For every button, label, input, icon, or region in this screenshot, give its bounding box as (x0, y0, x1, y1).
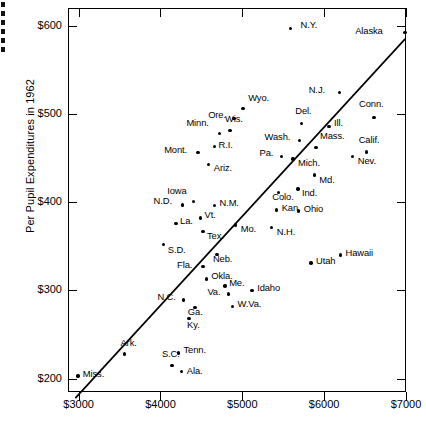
y-axis-tick-label: $500 (16, 107, 62, 119)
data-point-label: Miss. (83, 368, 104, 379)
data-point-label: Ala. (187, 365, 203, 376)
data-point (291, 157, 294, 160)
data-point-label: Mich. (298, 157, 320, 168)
data-point-label: Ind. (302, 187, 317, 198)
x-axis-tick-top (324, 8, 325, 17)
data-point (403, 31, 406, 34)
data-point-label: Tex. (207, 230, 224, 241)
data-point (181, 203, 184, 206)
data-point-label: Neb. (213, 253, 232, 264)
data-point (192, 200, 195, 203)
x-axis-tick-label: $5000 (210, 398, 274, 410)
data-point-label: Md. (319, 174, 334, 185)
data-point-label: Fla. (177, 259, 192, 270)
data-point-label: Ohio (304, 203, 323, 214)
y-axis-tick-right (397, 202, 406, 203)
data-point (372, 116, 375, 119)
data-point (205, 277, 208, 280)
data-point-label: Utah (316, 255, 335, 266)
data-point (170, 364, 173, 367)
x-axis-tick-label: $6000 (292, 398, 356, 410)
data-point-label: S.D. (168, 244, 186, 255)
data-point-label: Tenn. (183, 344, 205, 355)
data-point-label: Colo. (272, 191, 293, 202)
x-axis-tick-label: $7000 (374, 398, 426, 410)
x-axis-tick-top (160, 8, 161, 17)
data-point-label: N.M. (219, 197, 238, 208)
data-point (201, 230, 204, 233)
scan-artifact-mark (1, 38, 5, 43)
data-point-label: Mass. (320, 130, 345, 141)
scan-artifact-mark (1, 2, 5, 7)
data-point (250, 289, 253, 292)
data-point-label: Ariz. (214, 162, 232, 173)
x-axis-tick-top (242, 8, 243, 17)
data-point-label: Ky. (187, 319, 200, 330)
y-axis-tick (68, 290, 77, 291)
data-point-label: Ark. (120, 337, 136, 348)
data-point-label: Calif. (359, 134, 380, 145)
data-point-label: Wash. (265, 131, 291, 142)
data-point (123, 352, 126, 355)
data-point (182, 298, 185, 301)
data-point-label: La. (180, 215, 193, 226)
data-point-label: Me. (229, 277, 244, 288)
data-point-label: Ga. (188, 306, 203, 317)
data-point-label: N.D. (154, 195, 172, 206)
data-point (199, 216, 202, 219)
data-point-label: Idaho (257, 282, 280, 293)
x-axis-tick-label: $3000 (47, 398, 111, 410)
data-point-label: Vt. (205, 209, 216, 220)
y-axis-tick-label: $200 (16, 372, 62, 384)
y-axis-tick-right (397, 290, 406, 291)
data-point-label: Mont. (164, 144, 187, 155)
x-axis-tick-top (406, 8, 407, 17)
data-point-label: Mo. (241, 223, 256, 234)
scan-artifact-mark (1, 11, 5, 16)
data-point-label: Del. (295, 105, 311, 116)
y-axis-tick-label: $300 (16, 283, 62, 295)
data-point-label: Wis. (225, 113, 243, 124)
data-point-label: Ill. (334, 117, 343, 128)
x-axis-tick-top (79, 8, 80, 17)
data-point (76, 374, 79, 377)
y-axis-tick-label: $600 (16, 19, 62, 31)
y-axis-tick-right (397, 26, 406, 27)
y-axis-tick (68, 114, 77, 115)
scan-artifact-mark (1, 47, 5, 52)
scan-artifact-mark (1, 29, 5, 34)
data-point-label: Va. (207, 286, 220, 297)
data-point (218, 132, 221, 135)
y-axis-tick-label: $400 (16, 195, 62, 207)
data-point (227, 292, 230, 295)
data-point-label: W.Va. (237, 298, 261, 309)
data-point (223, 284, 226, 287)
data-point (201, 265, 204, 268)
data-point-label: N.C. (157, 291, 175, 302)
data-point-label: Wyo. (248, 92, 269, 103)
data-point-label: Hawaii (346, 247, 374, 258)
y-axis-tick-right (397, 379, 406, 380)
data-point (314, 146, 317, 149)
data-point (309, 261, 312, 264)
data-point-label: Minn. (186, 117, 208, 128)
data-point-label: Nev. (358, 155, 376, 166)
data-point-label: Ore. (208, 109, 226, 120)
data-point-label: Pa. (260, 147, 274, 158)
data-point (296, 187, 299, 190)
y-axis-tick (68, 202, 77, 203)
y-axis-tick (68, 26, 77, 27)
x-axis-tick-label: $4000 (128, 398, 192, 410)
data-point (174, 222, 177, 225)
y-axis-tick-right (397, 114, 406, 115)
data-point-label: N.J. (309, 84, 325, 95)
data-point (327, 125, 330, 128)
data-point-label: N.Y. (301, 19, 318, 30)
data-point-label: Alaska (355, 25, 383, 36)
data-point (339, 253, 342, 256)
y-axis-tick (68, 379, 77, 380)
y-axis-title: Per Pupil Expenditures in 1962 (24, 56, 36, 256)
data-point (313, 173, 316, 176)
scan-artifact-mark (1, 20, 5, 25)
